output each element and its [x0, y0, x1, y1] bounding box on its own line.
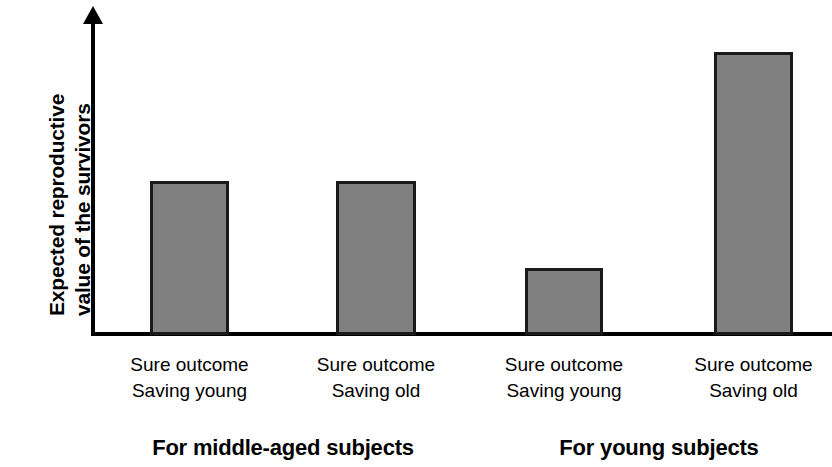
- bar-chart-figure: Expected reproductive value of the survi…: [0, 0, 832, 467]
- bar-young-saving-old: [714, 52, 793, 335]
- tick-label-bar-2-line-1: Sure outcome: [469, 352, 659, 378]
- y-axis-line: [91, 18, 95, 336]
- bar-middle-aged-saving-young: [150, 181, 229, 335]
- tick-label-bar-2-line-2: Saving young: [469, 378, 659, 404]
- y-axis-label-line-2: value of the survivors: [72, 103, 93, 316]
- bar-young-saving-young: [525, 268, 603, 335]
- tick-label-bar-1-line-2: Saving old: [281, 378, 471, 404]
- tick-label-bar-0: Sure outcome Saving young: [95, 352, 285, 404]
- tick-label-bar-3: Sure outcome Saving old: [659, 352, 832, 404]
- tick-label-bar-1-line-1: Sure outcome: [281, 352, 471, 378]
- group-label-middle-aged: For middle-aged subjects: [83, 437, 483, 459]
- tick-label-bar-2: Sure outcome Saving young: [469, 352, 659, 404]
- tick-label-bar-3-line-2: Saving old: [659, 378, 832, 404]
- bar-middle-aged-saving-old: [336, 181, 416, 335]
- tick-label-bar-3-line-1: Sure outcome: [659, 352, 832, 378]
- y-axis-label: Expected reproductive value of the survi…: [0, 0, 88, 340]
- tick-label-bar-0-line-2: Saving young: [95, 378, 285, 404]
- group-label-young: For young subjects: [459, 437, 832, 459]
- y-axis-label-line-1: Expected reproductive: [46, 94, 67, 316]
- tick-label-bar-0-line-1: Sure outcome: [95, 352, 285, 378]
- tick-label-bar-1: Sure outcome Saving old: [281, 352, 471, 404]
